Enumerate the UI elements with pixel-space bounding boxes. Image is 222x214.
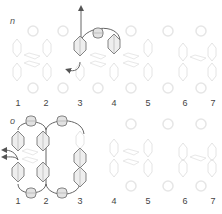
panel-n: n <box>10 8 216 108</box>
step-label-o: o <box>10 116 15 126</box>
thread-exit-arrow-n <box>68 62 80 71</box>
hex-bead <box>108 34 120 54</box>
thread-exit-arrow-o <box>4 157 18 160</box>
round-bead <box>26 188 36 198</box>
column-number: 2 <box>43 196 48 206</box>
hex-bead <box>74 167 86 187</box>
step-label-n: n <box>10 16 15 26</box>
column-number: 1 <box>15 98 20 108</box>
hex-bead <box>12 162 24 182</box>
round-bead <box>26 116 36 126</box>
column-number: 6 <box>182 196 187 206</box>
column-number: 2 <box>43 98 48 108</box>
column-number: 1 <box>15 196 20 206</box>
column-number: 4 <box>111 196 116 206</box>
column-number: 3 <box>77 196 82 206</box>
hex-bead <box>74 148 86 168</box>
column-number: 3 <box>77 98 82 108</box>
column-number: 6 <box>182 98 187 108</box>
round-bead <box>57 188 67 198</box>
hex-bead <box>37 162 49 182</box>
round-bead <box>57 116 67 126</box>
ghost-beads-o <box>22 119 216 191</box>
hex-bead <box>74 36 86 56</box>
column-number: 5 <box>145 196 150 206</box>
panel-o: o <box>4 116 216 206</box>
hex-bead <box>37 131 49 151</box>
column-number: 7 <box>210 196 215 206</box>
column-number: 4 <box>111 98 116 108</box>
beading-diagram: n <box>0 0 222 214</box>
round-bead <box>93 28 103 38</box>
hex-bead <box>12 131 24 151</box>
column-number: 5 <box>145 98 150 108</box>
column-number: 7 <box>210 98 215 108</box>
